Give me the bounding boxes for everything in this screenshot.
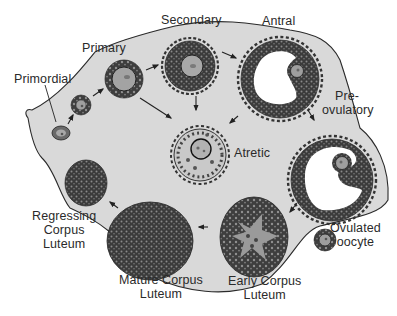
label-regressing-cl-line3: Luteum (32, 237, 96, 251)
label-preovulatory-line1: Pre- (335, 89, 374, 103)
early-primary-follicle (71, 95, 91, 115)
label-ovulated-line2: oocyte (330, 235, 381, 249)
label-preovulatory: Pre- ovulatory (335, 89, 374, 117)
label-early-cl-line2: Luteum (228, 288, 301, 302)
primordial-follicle (52, 126, 70, 140)
ovary-diagram (0, 0, 397, 316)
label-regressing-corpus-luteum: Regressing Corpus Luteum (32, 209, 96, 251)
label-antral: Antral (262, 14, 295, 28)
label-mature-cl-line1: Mature Corpus (119, 273, 203, 287)
early-corpus-luteum (220, 197, 288, 277)
label-preovulatory-line2: ovulatory (322, 103, 374, 117)
label-ovulated-oocyte: Ovulated oocyte (330, 221, 381, 249)
mature-corpus-luteum (107, 202, 193, 280)
label-mature-cl-line2: Luteum (119, 287, 203, 301)
regressing-corpus-luteum (65, 160, 107, 206)
label-ovulated-line1: Ovulated (330, 221, 381, 235)
primary-follicle (105, 60, 143, 98)
label-atretic: Atretic (234, 146, 270, 160)
label-primordial: Primordial (14, 72, 71, 86)
label-early-cl-line1: Early Corpus (228, 274, 301, 288)
label-regressing-cl-line1: Regressing (32, 209, 96, 223)
label-regressing-cl-line2: Corpus (32, 223, 96, 237)
label-secondary: Secondary (161, 13, 222, 27)
label-mature-corpus-luteum: Mature Corpus Luteum (119, 273, 203, 301)
label-early-corpus-luteum: Early Corpus Luteum (228, 274, 301, 302)
label-primary: Primary (82, 41, 126, 55)
